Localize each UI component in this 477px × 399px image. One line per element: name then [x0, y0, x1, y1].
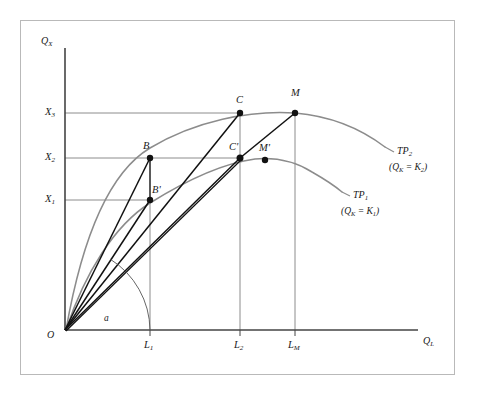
- ray-o-c: [65, 113, 240, 330]
- x-axis-label: QL: [423, 336, 434, 346]
- y-tick-label-x3: X3: [45, 107, 55, 118]
- x-tick-label-l1: L1: [144, 340, 153, 351]
- point-label-bprime: B': [152, 185, 161, 196]
- point-label-m: M: [291, 88, 300, 99]
- point-marker-bprime: [147, 197, 153, 203]
- curve-condition-tp1: (QK = K1): [341, 207, 379, 217]
- ray-o-bprime: [65, 200, 150, 330]
- point-label-c: C: [236, 95, 243, 106]
- y-tick-label-x2: X2: [45, 152, 55, 163]
- leader-tp1: [342, 192, 350, 196]
- curve-condition-tp2: (QK = K2): [389, 163, 427, 173]
- point-marker-mprime: [262, 157, 268, 163]
- point-marker-b: [147, 155, 153, 161]
- curve-tp2: [66, 113, 385, 330]
- leader-tp2: [385, 147, 394, 152]
- angle-arc: [110, 259, 150, 330]
- curve-label-tp2: TP2: [397, 146, 412, 156]
- point-marker-m: [292, 110, 298, 116]
- y-axis-label: QX: [41, 36, 52, 46]
- y-tick-label-x1: X1: [45, 194, 55, 205]
- ray-o-b: [65, 158, 150, 330]
- point-label-b: B: [143, 141, 149, 152]
- x-tick-label-lm: LM: [288, 340, 300, 351]
- point-label-cprime: C': [229, 142, 238, 153]
- angle-label: a: [104, 314, 109, 324]
- curve-label-tp1: TP1: [353, 190, 368, 200]
- figure-container: QX QL O X3 X2 X1 L1 L2 LM B B' C C' M M'…: [0, 0, 477, 399]
- origin-label: O: [47, 330, 54, 340]
- point-marker-cprime: [237, 155, 244, 162]
- x-tick-label-l2: L2: [234, 340, 243, 351]
- point-label-mprime: M': [259, 143, 270, 154]
- point-marker-c: [237, 110, 243, 116]
